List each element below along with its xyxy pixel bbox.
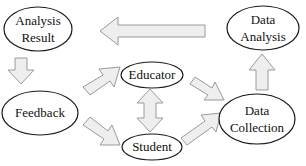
label-educator: Educator: [129, 67, 177, 82]
arrow-student-to-data-collection: [181, 113, 221, 145]
arrow-analysis-result-to-feedback: [8, 58, 34, 84]
label-data-collection-line1: Data: [245, 103, 270, 118]
label-analysis-result-line1: Analysis: [15, 13, 61, 28]
arrow-feedback-to-educator: [83, 67, 120, 95]
label-data-analysis-line1: Data: [251, 12, 276, 27]
arrow-educator-student-bidirectional: [137, 89, 163, 132]
arrow-data-collection-to-data-analysis: [249, 54, 275, 90]
diagram-canvas: Analysis Result Data Analysis Educator F…: [0, 0, 306, 166]
label-analysis-result-line2: Result: [21, 30, 55, 45]
arrow-data-analysis-to-analysis-result: [100, 17, 205, 45]
arrow-feedback-to-student: [83, 117, 120, 145]
label-data-collection-line2: Collection: [230, 120, 285, 135]
node-data-collection: [219, 94, 295, 144]
arrow-educator-to-data-collection: [190, 77, 224, 100]
label-student: Student: [132, 139, 172, 154]
label-data-analysis-line2: Analysis: [240, 29, 286, 44]
label-feedback: Feedback: [15, 105, 65, 120]
